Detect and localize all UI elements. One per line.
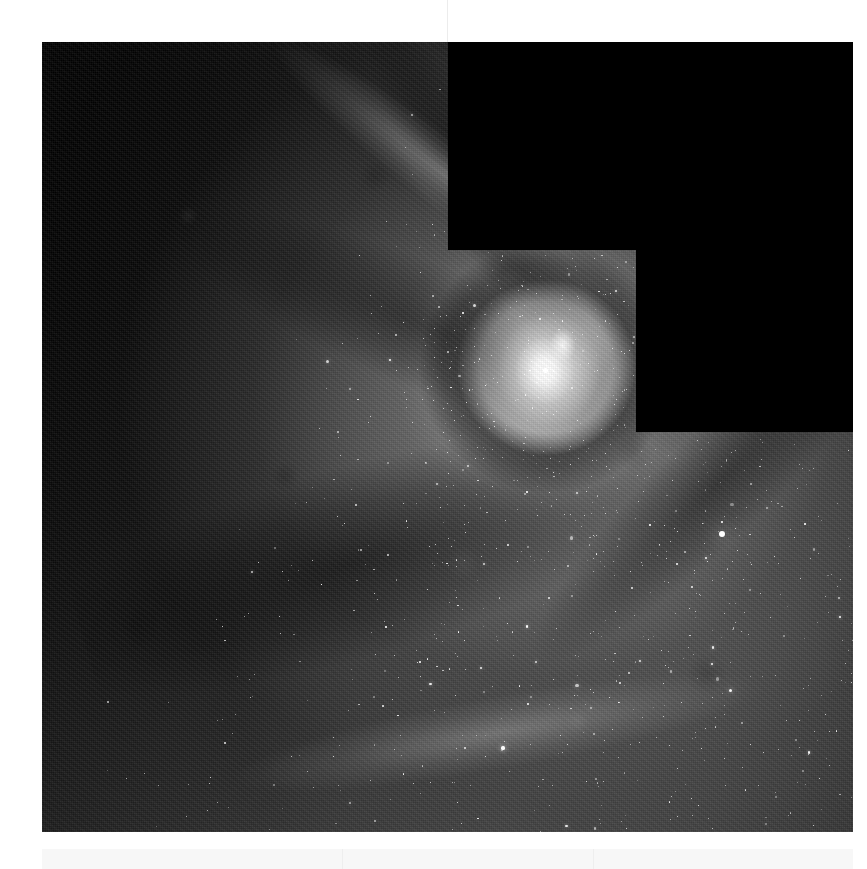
star-point-source (411, 453, 412, 454)
star-point-source (339, 745, 340, 746)
star-point-source (637, 475, 638, 476)
star-point-source (593, 733, 595, 735)
star-point-source (491, 303, 492, 304)
star-point-source (454, 420, 455, 421)
star-point-source (389, 359, 391, 361)
star-point-source (451, 410, 452, 411)
star-point-source (632, 342, 634, 344)
star-point-source (348, 710, 349, 711)
star-point-source (458, 375, 460, 377)
star-point-source (371, 313, 372, 314)
star-point-source (556, 411, 557, 412)
star-point-source (731, 452, 732, 453)
star-point-source (462, 735, 463, 736)
star-point-source (324, 498, 325, 499)
star-point-source (539, 318, 541, 320)
astronomical-image-canvas[interactable] (42, 42, 853, 832)
star-point-source (448, 565, 449, 566)
star-point-source (744, 470, 745, 471)
star-point-source (675, 791, 676, 792)
star-point-source (692, 815, 694, 817)
star-point-source (527, 703, 529, 705)
star-point-source (586, 781, 588, 783)
star-point-source (601, 636, 602, 637)
star-point-source (502, 255, 504, 257)
star-point-source (760, 593, 761, 594)
star-point-source (368, 422, 369, 423)
star-point-source (617, 314, 618, 315)
star-point-source (584, 515, 585, 516)
star-point-source (790, 813, 791, 814)
star-point-source (688, 647, 689, 648)
star-point-source (633, 267, 634, 268)
star-point-source (447, 452, 448, 453)
star-point-source (307, 700, 308, 701)
star-point-source (659, 545, 660, 546)
star-point-source (643, 491, 644, 492)
star-point-source (692, 738, 693, 739)
star-point-source (390, 799, 391, 800)
star-point-source (720, 482, 721, 483)
star-point-source (727, 568, 729, 570)
star-point-source (818, 516, 819, 517)
star-point-source (527, 477, 528, 478)
star-point-source (543, 451, 544, 452)
star-point-source (306, 502, 307, 503)
star-point-source (448, 538, 449, 539)
star-point-source (638, 501, 639, 502)
star-point-source (445, 423, 446, 424)
star-point-source (381, 306, 382, 307)
star-point-source (842, 640, 843, 641)
star-point-source (710, 554, 711, 555)
star-point-source (624, 353, 626, 355)
star-point-source (674, 528, 675, 529)
star-point-source (484, 496, 485, 497)
star-point-source (501, 718, 502, 719)
star-point-source (396, 246, 397, 247)
star-point-source (357, 399, 359, 401)
star-point-source (592, 502, 593, 503)
star-point-source (831, 574, 832, 575)
star-point-source (412, 422, 413, 423)
star-point-source (251, 571, 253, 573)
star-point-source (569, 309, 570, 310)
star-point-source (649, 476, 650, 477)
star-point-source (558, 753, 559, 754)
star-point-source (721, 637, 722, 638)
star-point-source (747, 554, 749, 556)
star-point-source (617, 512, 619, 514)
star-point-source (463, 415, 464, 416)
star-point-source (462, 351, 463, 352)
star-point-source (434, 357, 435, 358)
star-point-source (465, 532, 466, 533)
star-point-source (335, 823, 337, 825)
star-point-source (759, 466, 761, 468)
star-point-source (568, 273, 570, 275)
star-point-source (829, 765, 831, 767)
astronomical-image-frame[interactable] (42, 42, 853, 832)
star-point-source (578, 656, 579, 657)
star-point-source (536, 509, 537, 510)
star-point-source (698, 805, 700, 807)
star-point-source (626, 828, 627, 829)
star-point-source (576, 492, 578, 494)
below-image-strip[interactable] (42, 849, 853, 869)
star-point-source (478, 361, 480, 363)
star-point-source (467, 285, 468, 286)
star-point-source (624, 389, 626, 391)
star-point-source (401, 755, 402, 756)
star-point-source (653, 636, 654, 637)
star-point-source (436, 449, 437, 450)
star-point-source (449, 668, 451, 670)
star-point-source (829, 731, 830, 732)
star-point-source (312, 560, 313, 561)
star-point-source (603, 752, 604, 753)
star-point-source (351, 489, 352, 490)
star-point-source (484, 345, 485, 346)
star-point-source (582, 334, 583, 335)
star-point-source (533, 455, 534, 456)
star-point-source (473, 304, 476, 307)
star-point-source (337, 431, 339, 433)
star-point-source (639, 742, 640, 743)
star-point-source (665, 665, 666, 666)
